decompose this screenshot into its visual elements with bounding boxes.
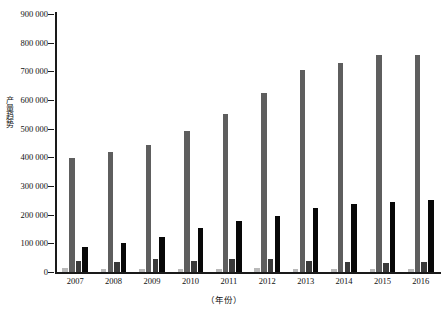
y-axis-tick-label: 800 000	[2, 38, 48, 48]
bar	[306, 261, 312, 272]
y-axis-tick-label: 200 000	[2, 210, 48, 220]
bar	[121, 243, 127, 272]
x-axis-tick-label: 2009	[133, 276, 171, 286]
bar-group	[402, 14, 440, 272]
y-axis-tick	[48, 243, 54, 244]
bar	[293, 269, 299, 272]
bar	[229, 259, 235, 272]
y-axis-tick-label: 900 000	[2, 9, 48, 19]
bar	[408, 269, 414, 272]
bar	[159, 237, 165, 272]
x-axis-tick-label: 2014	[325, 276, 363, 286]
bar-group	[94, 14, 132, 272]
x-axis-tick-label: 2011	[210, 276, 248, 286]
bar	[338, 63, 344, 272]
bar	[428, 200, 434, 272]
bar	[351, 204, 357, 272]
y-axis-tick-label: 600 000	[2, 95, 48, 105]
bar-group	[363, 14, 401, 272]
y-axis-tick	[48, 129, 54, 130]
bar	[421, 262, 427, 272]
y-axis-tick	[48, 100, 54, 101]
bar	[76, 261, 82, 272]
x-axis-tick-label: 2013	[286, 276, 324, 286]
bar-groups	[56, 14, 440, 272]
bar	[191, 261, 197, 272]
x-axis-line	[55, 272, 441, 274]
bar	[178, 269, 184, 272]
y-axis-tick	[48, 157, 54, 158]
y-axis-tick	[48, 43, 54, 44]
bar	[69, 158, 75, 272]
y-axis-tick	[48, 14, 54, 15]
bar	[153, 259, 159, 272]
x-axis-tick-label: 2015	[363, 276, 401, 286]
y-axis-tick	[48, 186, 54, 187]
bar	[101, 269, 107, 272]
bar	[415, 55, 421, 272]
x-axis-tick-label: 2008	[94, 276, 132, 286]
bar	[331, 269, 337, 272]
bar	[383, 263, 389, 272]
bar	[254, 268, 260, 272]
bar	[216, 269, 222, 272]
bar	[261, 93, 267, 272]
x-axis-tick-label: 2016	[402, 276, 440, 286]
y-axis-tick-label: 500 000	[2, 124, 48, 134]
y-axis-tick-label: 300 000	[2, 181, 48, 191]
bar	[268, 259, 274, 272]
bar-group	[133, 14, 171, 272]
bar	[376, 55, 382, 272]
bar-chart: 产量趋势 900 000800 000700 000600 000500 000…	[0, 0, 447, 319]
bar	[184, 131, 190, 272]
x-axis-tick-label: 2012	[248, 276, 286, 286]
bar	[139, 269, 145, 272]
y-axis-tick-labels: 900 000800 000700 000600 000500 000400 0…	[0, 0, 48, 319]
bar	[114, 262, 120, 272]
y-axis-tick-label: 100 000	[2, 238, 48, 248]
bar-group	[171, 14, 209, 272]
bar	[236, 221, 242, 272]
bar-group	[286, 14, 324, 272]
y-axis-tick	[48, 71, 54, 72]
bar-group	[325, 14, 363, 272]
y-axis-tick-label: 400 000	[2, 152, 48, 162]
bar	[300, 70, 306, 272]
bar	[198, 228, 204, 272]
bar	[146, 145, 152, 272]
x-axis-tick-label: 2007	[56, 276, 94, 286]
bar	[108, 152, 114, 272]
y-axis-tick-label: 0	[2, 267, 48, 277]
y-axis-tick-label: 700 000	[2, 66, 48, 76]
bar	[313, 208, 319, 272]
bar-group	[248, 14, 286, 272]
bar	[390, 202, 396, 272]
x-axis-tick-labels: 2007200820092010201120122013201420152016	[56, 276, 440, 286]
bar	[370, 269, 376, 272]
bar	[345, 262, 351, 272]
x-axis-title: （年份）	[0, 293, 447, 305]
bar-group	[56, 14, 94, 272]
y-axis-tick	[48, 272, 54, 273]
bar-group	[210, 14, 248, 272]
y-axis-tick	[48, 215, 54, 216]
bar	[223, 114, 229, 272]
bar	[62, 268, 68, 272]
x-axis-tick-label: 2010	[171, 276, 209, 286]
bar	[82, 247, 88, 272]
bar	[275, 216, 281, 272]
